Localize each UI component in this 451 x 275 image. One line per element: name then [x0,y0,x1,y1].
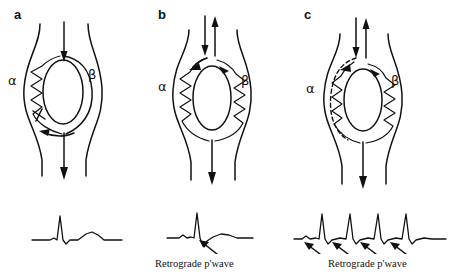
top-arrow-down-c [353,18,360,58]
ecg-trace-b [145,204,295,254]
ecg-trace-a [0,204,150,254]
reentry-arrow-c [340,64,351,72]
annotation-arrow-c-3 [360,242,376,254]
bottom-arrow-down-b [208,140,216,185]
avnrt-figure: a α β [0,0,451,275]
panel-a: a α β [0,0,150,275]
ecg-trace-c [290,204,451,254]
av-node-diagram-a [0,0,150,200]
av-node-diagram-c [290,0,451,200]
bottom-arrow-down-a [60,133,68,180]
panel-b: b α β [145,0,295,275]
top-arrow-up-b [212,16,219,56]
conduction-block-marker-a [33,109,45,121]
caption-b: Retrograde p'wave [155,258,234,269]
panel-c: c α β [290,0,440,275]
annotation-arrow-b [199,240,217,254]
bottom-arrow-down-c [359,142,367,189]
annotation-arrow-c-4 [390,242,406,254]
top-arrow-up-c [363,18,370,58]
av-node-diagram-b [145,0,295,200]
caption-c: Retrograde p'wave [328,258,407,269]
annotation-arrow-c-1 [304,242,320,254]
top-arrow-down-b [202,16,209,56]
annotation-arrow-c-2 [332,242,348,254]
